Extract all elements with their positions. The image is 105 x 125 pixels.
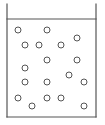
- particle-circle-icon: [22, 79, 28, 85]
- particle-circle-icon: [66, 72, 72, 78]
- particle-circle-icon: [81, 103, 87, 109]
- particle-circle-icon: [29, 103, 35, 109]
- particles-group: [15, 27, 87, 109]
- particle-circle-icon: [81, 79, 87, 85]
- particle-circle-icon: [44, 57, 50, 63]
- beaker-diagram: [0, 0, 105, 125]
- particle-circle-icon: [58, 95, 64, 101]
- particle-circle-icon: [74, 57, 80, 63]
- particle-circle-icon: [22, 42, 28, 48]
- particle-circle-icon: [44, 79, 50, 85]
- particle-circle-icon: [36, 42, 42, 48]
- particle-circle-icon: [22, 65, 28, 71]
- particle-circle-icon: [15, 95, 21, 101]
- particle-circle-icon: [15, 27, 21, 33]
- particle-circle-icon: [58, 42, 64, 48]
- particle-circle-icon: [44, 95, 50, 101]
- particle-circle-icon: [74, 35, 80, 41]
- particle-circle-icon: [44, 27, 50, 33]
